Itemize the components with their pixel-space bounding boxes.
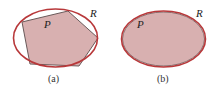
panel-b: P R (b) — [122, 7, 206, 85]
panel-a: P R (a) — [14, 7, 99, 85]
region-label-r-a: R — [89, 7, 97, 19]
caption-a: (a) — [48, 73, 59, 85]
region-label-r-b: R — [195, 7, 203, 19]
caption-b: (b) — [157, 73, 169, 85]
polygon-label-p-a: P — [43, 18, 51, 30]
polygon-label-p-b: P — [136, 18, 144, 30]
polygon-p-b — [123, 12, 205, 66]
figure: P R (a) P R (b) — [0, 0, 214, 89]
